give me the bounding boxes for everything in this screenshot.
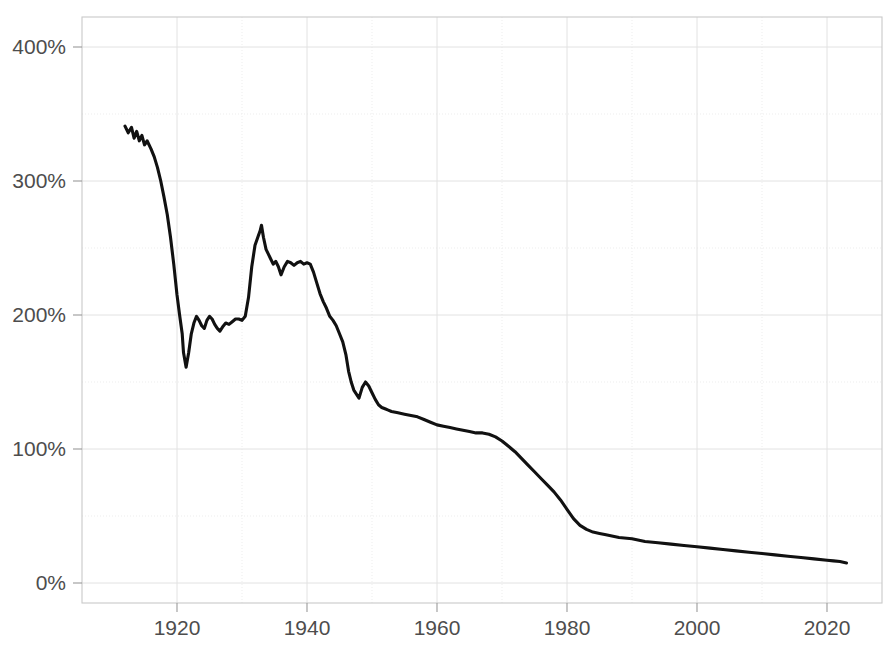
- x-axis-tick-label: 1960: [414, 616, 461, 639]
- y-axis-tick-label: 400%: [12, 35, 66, 58]
- chart-container: 0%100%200%300%400% 192019401960198020002…: [0, 0, 890, 660]
- y-axis-tick-label: 100%: [12, 437, 66, 460]
- line-chart: 0%100%200%300%400% 192019401960198020002…: [0, 0, 890, 660]
- y-axis-ticks: [73, 47, 82, 583]
- x-axis-tick-label: 1920: [154, 616, 201, 639]
- x-axis-tick-label: 2020: [804, 616, 851, 639]
- x-axis-tick-label: 1940: [284, 616, 331, 639]
- data-series-line: [125, 126, 847, 563]
- y-axis-tick-label: 200%: [12, 303, 66, 326]
- x-axis-labels: 192019401960198020002020: [154, 616, 851, 639]
- y-axis-tick-label: 0%: [36, 571, 66, 594]
- y-axis-labels: 0%100%200%300%400%: [12, 35, 66, 594]
- x-axis-ticks: [177, 603, 827, 612]
- x-axis-tick-label: 2000: [674, 616, 721, 639]
- x-axis-tick-label: 1980: [544, 616, 591, 639]
- y-axis-tick-label: 300%: [12, 169, 66, 192]
- minor-gridlines: [82, 17, 882, 603]
